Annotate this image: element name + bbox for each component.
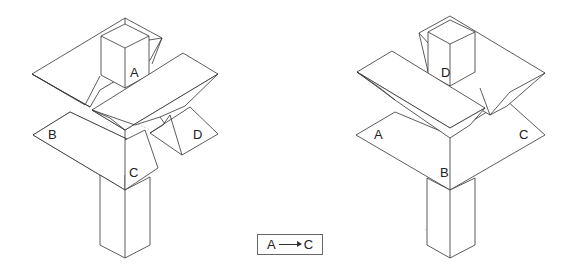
right-figure <box>356 16 545 258</box>
right-label-b: B <box>440 166 449 179</box>
right-label-d: D <box>441 66 450 79</box>
column <box>427 178 475 258</box>
right-label-c: C <box>519 128 528 141</box>
legend-from: A <box>267 237 276 252</box>
left-label-b: B <box>48 128 57 141</box>
legend-to: C <box>304 237 313 252</box>
left-label-a: A <box>130 66 139 79</box>
post-d <box>428 20 475 86</box>
diagram-canvas <box>0 0 573 274</box>
left-label-d: D <box>193 128 202 141</box>
left-label-c: C <box>129 166 138 179</box>
left-figure <box>32 18 218 258</box>
transformation-legend: A C <box>257 234 323 255</box>
right-arrow-icon <box>279 244 301 245</box>
right-label-a: A <box>374 128 383 141</box>
